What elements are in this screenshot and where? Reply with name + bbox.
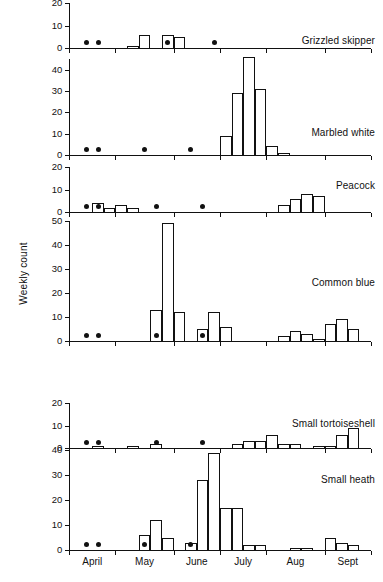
absence-dot — [96, 40, 101, 45]
x-tick-mark — [220, 213, 221, 217]
y-tick-label: 0 — [57, 443, 62, 453]
panel-grizzled-skipper: 01020Grizzled skipper — [0, 0, 383, 582]
y-axis — [69, 450, 70, 550]
histogram-bar — [278, 336, 290, 341]
histogram-bar — [243, 57, 255, 155]
absence-dot — [96, 440, 101, 445]
y-tick-mark — [65, 341, 69, 342]
histogram-bar — [150, 444, 162, 449]
histogram-bar — [278, 153, 290, 155]
histogram-bar — [278, 205, 290, 212]
histogram-bar — [255, 441, 267, 448]
histogram-bar — [208, 453, 220, 551]
absence-dot — [96, 542, 101, 547]
histogram-bar — [348, 428, 360, 448]
histogram-bar — [348, 545, 360, 550]
month-label: June — [186, 556, 208, 567]
y-tick-label: 0 — [57, 43, 62, 53]
y-tick-mark — [65, 475, 69, 476]
y-tick-mark — [65, 450, 69, 451]
absence-dot — [188, 542, 193, 547]
panel-marbled-white: 010203040Marbled white — [0, 0, 383, 582]
histogram-bar — [220, 508, 232, 551]
y-tick-label: 20 — [52, 0, 62, 8]
panel-small-tortoiseshell: 01020Small tortoiseshell — [0, 0, 383, 582]
absence-dot — [165, 40, 170, 45]
histogram-bar — [92, 203, 104, 212]
absence-dot — [154, 204, 159, 209]
y-axis — [69, 403, 70, 448]
absence-dot — [96, 204, 101, 209]
y-tick-mark — [65, 70, 69, 71]
histogram-bar — [313, 196, 325, 212]
y-tick-label: 10 — [52, 520, 62, 530]
x-tick-mark — [266, 49, 267, 53]
y-tick-label: 10 — [52, 185, 62, 195]
absence-dot — [84, 542, 89, 547]
histogram-bar — [325, 538, 337, 551]
x-tick-mark — [115, 49, 116, 53]
x-tick-mark — [115, 551, 116, 555]
y-tick-label: 20 — [52, 288, 62, 298]
y-tick-mark — [65, 48, 69, 49]
absence-dot — [142, 147, 147, 152]
histogram-bar — [301, 334, 313, 341]
y-tick-label: 10 — [52, 129, 62, 139]
y-tick-label: 30 — [52, 264, 62, 274]
x-tick-mark — [174, 342, 175, 346]
x-tick-mark — [220, 449, 221, 453]
series-label: Small tortoiseshell — [292, 418, 375, 429]
histogram-bar — [150, 520, 162, 550]
histogram-bar — [290, 444, 302, 449]
histogram-bar — [232, 508, 244, 551]
y-tick-label: 10 — [52, 421, 62, 431]
histogram-bar — [162, 538, 174, 551]
x-tick-mark — [325, 213, 326, 217]
x-tick-mark — [325, 49, 326, 53]
histogram-bar — [139, 535, 151, 550]
histogram-bar — [197, 480, 209, 550]
histogram-bar — [266, 146, 278, 155]
y-tick-mark — [65, 167, 69, 168]
histogram-bar — [313, 446, 325, 448]
y-tick-label: 0 — [57, 545, 62, 555]
y-tick-label: 30 — [52, 470, 62, 480]
y-axis — [69, 59, 70, 155]
histogram-bar — [278, 444, 290, 449]
absence-dot — [212, 40, 217, 45]
x-tick-mark — [325, 551, 326, 555]
x-tick-mark — [325, 156, 326, 160]
histogram-bar — [104, 208, 116, 213]
y-tick-mark — [65, 525, 69, 526]
absence-dot — [142, 542, 147, 547]
x-tick-mark — [371, 49, 372, 53]
series-label: Grizzled skipper — [302, 35, 375, 46]
histogram-bar — [266, 435, 278, 449]
y-tick-mark — [65, 269, 69, 270]
histogram-bar — [197, 329, 209, 341]
histogram-bar — [162, 35, 174, 49]
absence-dot — [84, 40, 89, 45]
x-tick-mark — [371, 156, 372, 160]
y-axis — [69, 3, 70, 48]
y-tick-label: 40 — [52, 445, 62, 455]
y-tick-label: 10 — [52, 312, 62, 322]
x-tick-mark — [371, 551, 372, 555]
y-tick-mark — [65, 212, 69, 213]
month-label: July — [234, 556, 252, 567]
x-axis — [69, 212, 371, 213]
histogram-bar — [127, 208, 139, 213]
histogram-bar — [255, 545, 267, 550]
y-tick-mark — [65, 293, 69, 294]
histogram-bar — [232, 444, 244, 449]
absence-dot — [84, 147, 89, 152]
x-axis — [69, 550, 371, 551]
y-tick-label: 40 — [52, 240, 62, 250]
histogram-bar — [325, 446, 337, 448]
x-tick-mark — [220, 156, 221, 160]
panel-peacock: 01020Peacock — [0, 0, 383, 582]
histogram-bar — [220, 327, 232, 341]
histogram-bar — [290, 199, 302, 213]
y-tick-label: 0 — [57, 207, 62, 217]
y-tick-label: 10 — [52, 21, 62, 31]
